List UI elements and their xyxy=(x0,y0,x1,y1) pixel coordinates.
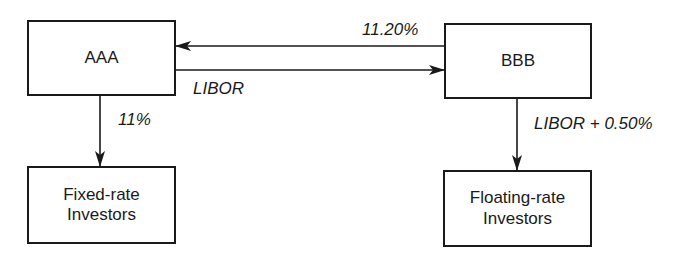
edge-label-floating-rate-coupon: LIBOR + 0.50% xyxy=(534,114,653,134)
node-aaa: AAA xyxy=(27,20,176,96)
node-bbb: BBB xyxy=(444,23,592,99)
edge-label-libor-to-bbb: LIBOR xyxy=(193,79,244,99)
node-fixed-rate-investors: Fixed-rate Investors xyxy=(27,166,176,244)
edge-label-fixed-payment-to-aaa: 11.20% xyxy=(362,20,418,40)
node-aaa-label: AAA xyxy=(84,48,118,68)
node-floating-rate-investors-label: Floating-rate Investors xyxy=(470,188,565,229)
node-bbb-label: BBB xyxy=(501,51,535,71)
swap-diagram: AAA BBB Fixed-rate Investors Floating-ra… xyxy=(0,0,694,267)
node-fixed-rate-investors-label: Fixed-rate Investors xyxy=(63,185,140,226)
edge-label-fixed-rate-coupon: 11% xyxy=(118,110,151,130)
node-floating-rate-investors: Floating-rate Investors xyxy=(443,170,592,247)
